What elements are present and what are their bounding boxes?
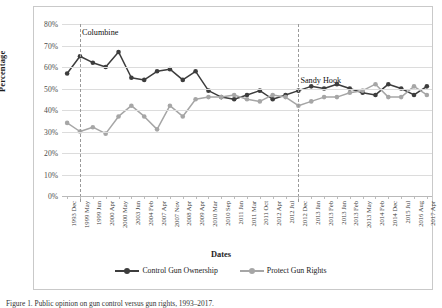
data-point [180,78,185,83]
data-point [245,93,250,98]
y-axis-tick-label: 80% [44,20,58,29]
data-point [322,95,327,100]
data-point [399,95,404,100]
data-point [270,97,275,102]
x-axis-tick-label: 2008 Apr [185,201,192,226]
data-point [91,60,96,65]
x-axis-tick [157,197,158,199]
x-axis-tick [298,197,299,199]
plot-area: ColumbineSandy Hook [62,24,432,196]
y-axis-tick-label: 50% [44,84,58,93]
x-axis-tick [221,197,222,199]
x-axis-tick [67,197,68,199]
x-axis-tick-label: 2004 Feb [147,201,154,226]
data-point [258,99,263,104]
event-marker-line [298,24,299,202]
x-axis-tick [350,197,351,199]
data-point [386,82,391,87]
x-axis-tick [208,197,209,199]
x-axis-tick-label: 2011 Oct [262,201,269,225]
series-line [67,84,427,133]
data-point [142,114,147,119]
data-point [425,93,430,98]
data-point [373,93,378,98]
x-axis-tick [119,197,120,199]
x-axis-tick [311,197,312,199]
data-point [142,78,147,83]
figure-caption: Figure 1. Public opinion on gun control … [6,299,442,308]
grid-line [62,110,432,111]
figure-container: Percentage 80%70%60%50%40%30%20%10%0% Co… [0,0,442,308]
x-axis-tick [131,197,132,199]
data-point [347,91,352,96]
x-axis-tick-label: 2000 May [121,201,128,228]
legend-swatch [115,267,139,275]
data-point [386,95,391,100]
x-axis-tick-label: 2010 Sep [224,201,231,226]
legend-item[interactable]: Control Gun Ownership [115,266,217,275]
data-point [309,99,314,104]
data-point [283,95,288,100]
data-point [129,75,134,80]
data-point [65,71,70,76]
data-point [245,97,250,102]
data-point [232,97,237,102]
x-axis-tick-label: 2013 Feb [327,201,334,226]
data-point [335,95,340,100]
x-axis-tick-label: 2010 Mar [211,201,218,227]
data-point [219,95,224,100]
x-axis-tick [80,197,81,199]
legend-item[interactable]: Protect Gun Rights [240,266,327,275]
data-point [168,103,173,108]
x-axis-tick-label: 1993 Dec [70,201,77,226]
x-axis-tick [363,197,364,199]
data-point [116,114,121,119]
x-axis-tick-label: 2007 Apr [160,201,167,226]
x-axis-tick [183,197,184,199]
x-axis-tick [414,197,415,199]
y-axis-tick-label: 40% [44,106,58,115]
x-axis-tick [260,197,261,199]
data-point [373,82,378,87]
grid-line [62,89,432,90]
y-axis-tick-label: 0% [48,192,58,201]
grid-line [62,46,432,47]
x-axis-tick [324,197,325,199]
data-point [91,125,96,130]
data-point [232,93,237,98]
x-axis-tick-label: 2015 Jul [404,201,411,224]
data-point [412,93,417,98]
x-axis-tick-label: 1999 Jun [95,201,102,225]
event-marker-label: Sandy Hook [300,76,341,85]
x-axis-tick-label: 2017 Apr [429,201,436,226]
x-axis-tick [286,197,287,199]
x-axis-tick [234,197,235,199]
x-axis-tick [388,197,389,199]
x-axis-tick [375,197,376,199]
x-axis-tick [427,197,428,199]
x-axis-tick-label: 2013 Feb [352,201,359,226]
x-axis-tick-label: 2016 Aug [417,201,424,227]
grid-line [62,175,432,176]
data-point [155,69,160,74]
grid-line [62,24,432,25]
y-axis-tick-labels: 80%70%60%50%40%30%20%10%0% [0,24,58,196]
grid-line [62,67,432,68]
legend-label: Protect Gun Rights [267,266,327,275]
x-axis-tick [93,197,94,199]
y-axis-tick-label: 30% [44,127,58,136]
x-axis-tick-label: 2007 Nov [173,201,180,227]
x-axis-tick-label: 2013 May [365,201,372,228]
x-axis-tick-label: 1999 May [83,201,90,228]
x-axis-title: Dates [0,250,442,259]
x-axis-tick-label: 2013 Jan [340,201,347,225]
x-axis-tick [247,197,248,199]
y-axis-tick-label: 20% [44,149,58,158]
x-axis-tick-label: 2012 Jul [288,201,295,224]
grid-line [62,132,432,133]
x-axis-tick-label: 2014 Dec [391,201,398,226]
x-axis-tick [170,197,171,199]
x-axis-tick [401,197,402,199]
x-axis-tick-label: 2012 Apr [275,201,282,226]
event-marker-line [80,24,81,202]
